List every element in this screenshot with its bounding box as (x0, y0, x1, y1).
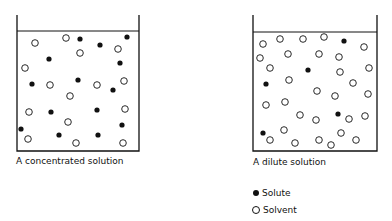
solvent-particle (328, 142, 335, 149)
solvent-particle (281, 127, 288, 134)
dilute-beaker (253, 15, 377, 151)
solvent-particle (285, 51, 292, 58)
solution-diagram (0, 0, 392, 221)
solute-particle (341, 38, 346, 43)
solute-particle (56, 132, 61, 137)
solvent-particle (94, 82, 101, 89)
solvent-particle (313, 117, 320, 124)
solute-particle (94, 107, 99, 112)
solvent-particle (257, 55, 264, 62)
solvent-particle (65, 119, 72, 126)
solvent-particle (26, 109, 33, 116)
legend-solvent-label: Solvent (263, 205, 297, 215)
solvent-particle (67, 93, 74, 100)
solute-particle (95, 132, 100, 137)
solvent-particle (121, 78, 128, 85)
solvent-particle (277, 36, 284, 43)
solute-particle (29, 81, 34, 86)
solvent-particle (122, 106, 129, 113)
solvent-particle (22, 65, 29, 72)
solvent-particle (362, 113, 369, 120)
solute-particle (260, 130, 265, 135)
solvent-particle (300, 36, 307, 43)
solute-dot-icon (253, 190, 259, 196)
solvent-circle-icon (252, 206, 260, 214)
legend-solute: Solute (253, 188, 291, 198)
solvent-particle (260, 41, 267, 48)
solvent-particle (282, 99, 289, 106)
solvent-particle (361, 44, 368, 51)
solute-particle (18, 126, 23, 131)
beaker-outline (17, 15, 139, 151)
solvent-particle (321, 34, 328, 41)
solvent-particle (338, 130, 345, 137)
solute-particle (75, 77, 80, 82)
solvent-particle (73, 140, 80, 147)
solvent-particle (336, 54, 343, 61)
solvent-particle (267, 137, 274, 144)
concentrated-beaker (17, 15, 139, 151)
solvent-particle (366, 65, 373, 72)
solvent-particle (47, 82, 54, 89)
solvent-particle (292, 140, 299, 147)
solute-particle (46, 56, 51, 61)
solute-particle (124, 34, 129, 39)
solvent-particle (316, 137, 323, 144)
solvent-particle (353, 137, 360, 144)
solvent-particle (267, 65, 274, 72)
solute-particle (48, 109, 53, 114)
solvent-particle (365, 91, 372, 98)
legend-solute-label: Solute (262, 188, 291, 198)
solvent-particle (286, 77, 293, 84)
legend-solvent: Solvent (252, 205, 297, 215)
solvent-particle (115, 46, 122, 53)
solvent-particle (63, 35, 70, 42)
solute-particle (97, 42, 102, 47)
solvent-particle (314, 88, 321, 95)
beaker-outline (253, 15, 377, 151)
solvent-particle (346, 116, 353, 123)
solute-particle (117, 60, 122, 65)
concentrated-solution-label: A concentrated solution (16, 156, 123, 166)
solute-particle (263, 81, 268, 86)
solute-particle (110, 87, 115, 92)
solute-particle (305, 67, 310, 72)
dilute-solution-label: A dilute solution (253, 157, 326, 167)
solvent-particle (332, 93, 339, 100)
solvent-particle (32, 40, 39, 47)
solvent-particle (350, 80, 357, 87)
solvent-particle (316, 51, 323, 58)
solvent-particle (25, 136, 32, 143)
solute-particle (77, 36, 82, 41)
solvent-particle (263, 102, 270, 109)
solvent-particle (77, 50, 84, 57)
solvent-particle (297, 112, 304, 119)
solute-particle (119, 122, 124, 127)
solvent-particle (337, 69, 344, 76)
solute-particle (335, 111, 340, 116)
solvent-particle (120, 140, 127, 147)
